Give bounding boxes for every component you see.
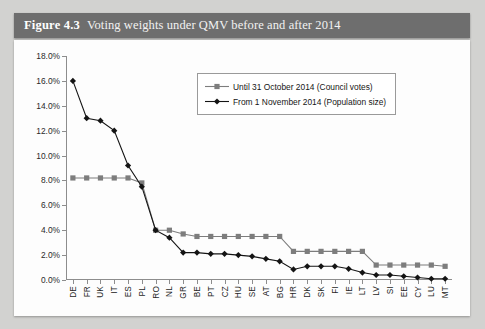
legend-square-marker-icon: [204, 81, 230, 92]
legend-item-label: From 1 November 2014 (Population size): [233, 97, 386, 107]
series-data-point: [346, 249, 351, 254]
x-axis-tick-mark: [321, 280, 322, 284]
x-axis-tick-mark: [128, 280, 129, 284]
chart-series-1: [70, 175, 447, 269]
x-axis-tick-mark: [418, 280, 419, 284]
x-axis-tick-mark: [362, 280, 363, 284]
y-axis-tick-label: 16.0%: [36, 76, 60, 86]
chart-panel: 18.0%16.0%14.0%12.0%10.0%8.0%6.0%4.0%2.0…: [14, 40, 470, 316]
x-axis-tick-label: PL: [137, 286, 146, 296]
x-axis-tick-mark: [142, 280, 143, 284]
x-axis-tick-mark: [293, 280, 294, 284]
series-data-point: [360, 249, 365, 254]
series-data-point: [70, 175, 75, 180]
series-data-point: [98, 175, 103, 180]
figure-title: Voting weights under QMV before and afte…: [87, 18, 341, 33]
x-axis-tick-label: CZ: [220, 286, 229, 297]
x-axis-tick-mark: [100, 280, 101, 284]
x-axis-tick-label: SI: [385, 286, 394, 294]
series-data-point: [236, 234, 241, 239]
x-axis-tick-mark: [114, 280, 115, 284]
series-data-point: [84, 175, 89, 180]
figure-container: Figure 4.3 Voting weights under QMV befo…: [0, 0, 485, 329]
x-axis-tick-mark: [197, 280, 198, 284]
x-axis-tick-label: GR: [179, 286, 188, 299]
legend-diamond-marker-icon: [204, 96, 230, 107]
y-axis-tick-label: 8.0%: [41, 175, 60, 185]
series-data-point: [318, 249, 323, 254]
series-data-point: [346, 266, 352, 272]
x-axis-tick-label: SK: [317, 286, 326, 297]
x-axis-tick-label: RO: [151, 286, 160, 299]
x-axis-tick-label: FR: [82, 286, 91, 297]
series-data-point: [263, 234, 268, 239]
legend-item-label: Until 31 October 2014 (Council votes): [233, 82, 373, 92]
series-data-point: [318, 263, 324, 269]
y-axis-tick-label: 18.0%: [36, 51, 60, 61]
series-data-point: [387, 262, 392, 267]
series-data-point: [194, 234, 199, 239]
series-data-point: [277, 234, 282, 239]
series-data-point: [194, 250, 200, 256]
y-axis-tick-label: 0.0%: [41, 275, 60, 285]
series-data-point: [235, 252, 241, 258]
x-axis-tick-label: LT: [358, 286, 367, 295]
x-axis-tick-label: LV: [372, 286, 381, 296]
figure-number: Figure 4.3: [24, 18, 80, 33]
x-axis-tick-label: SE: [248, 286, 257, 297]
x-axis-tick-mark: [225, 280, 226, 284]
series-data-point: [181, 231, 186, 236]
y-axis-tick-label: 4.0%: [41, 225, 60, 235]
series-data-point: [125, 162, 131, 168]
series-data-point: [84, 115, 90, 121]
x-axis-tick-mark: [404, 280, 405, 284]
x-axis-tick-mark: [183, 280, 184, 284]
series-data-point: [387, 272, 393, 278]
x-axis-tick-mark: [73, 280, 74, 284]
x-axis-tick-label: LU: [427, 286, 436, 297]
x-axis-tick-mark: [238, 280, 239, 284]
series-data-point: [428, 276, 434, 282]
series-data-point: [208, 251, 214, 257]
series-data-point: [373, 272, 379, 278]
series-data-point: [249, 253, 255, 259]
chart-legend: Until 31 October 2014 (Council votes)Fro…: [197, 73, 396, 115]
series-data-point: [125, 175, 130, 180]
series-data-point: [290, 266, 296, 272]
x-axis-tick-mark: [252, 280, 253, 284]
x-axis-tick-label: DK: [303, 286, 312, 298]
series-data-point: [374, 262, 379, 267]
x-axis-tick-label: EE: [399, 286, 408, 297]
series-data-point: [443, 264, 448, 269]
series-data-point: [70, 78, 76, 84]
x-axis-tick-label: DE: [68, 286, 77, 298]
series-data-point: [250, 234, 255, 239]
x-axis-tick-mark: [349, 280, 350, 284]
series-data-point: [401, 262, 406, 267]
x-axis-tick-mark: [156, 280, 157, 284]
x-axis-tick-mark: [390, 280, 391, 284]
x-axis-tick-mark: [280, 280, 281, 284]
x-axis-tick-label: IE: [344, 286, 353, 294]
series-line: [73, 178, 445, 266]
x-axis-tick-label: IT: [110, 286, 119, 294]
x-axis-tick-mark: [87, 280, 88, 284]
y-axis-tick-label: 6.0%: [41, 200, 60, 210]
y-axis-tick-label: 14.0%: [36, 101, 60, 111]
x-axis-tick-label: ES: [124, 286, 133, 297]
x-axis-tick-mark: [169, 280, 170, 284]
series-data-point: [415, 262, 420, 267]
x-axis-tick-label: BG: [275, 286, 284, 298]
series-data-point: [401, 273, 407, 279]
x-axis-tick-label: FI: [330, 286, 339, 294]
x-axis-tick-label: PT: [206, 286, 215, 297]
x-axis-tick-label: BE: [192, 286, 201, 297]
figure-header-bar: Figure 4.3 Voting weights under QMV befo…: [14, 13, 470, 38]
y-axis-tick-label: 12.0%: [36, 126, 60, 136]
legend-item: From 1 November 2014 (Population size): [204, 94, 386, 109]
series-data-point: [332, 263, 338, 269]
series-data-point: [167, 228, 172, 233]
x-axis-tick-label: NL: [165, 286, 174, 297]
x-axis-tick-mark: [266, 280, 267, 284]
series-data-point: [442, 276, 448, 282]
